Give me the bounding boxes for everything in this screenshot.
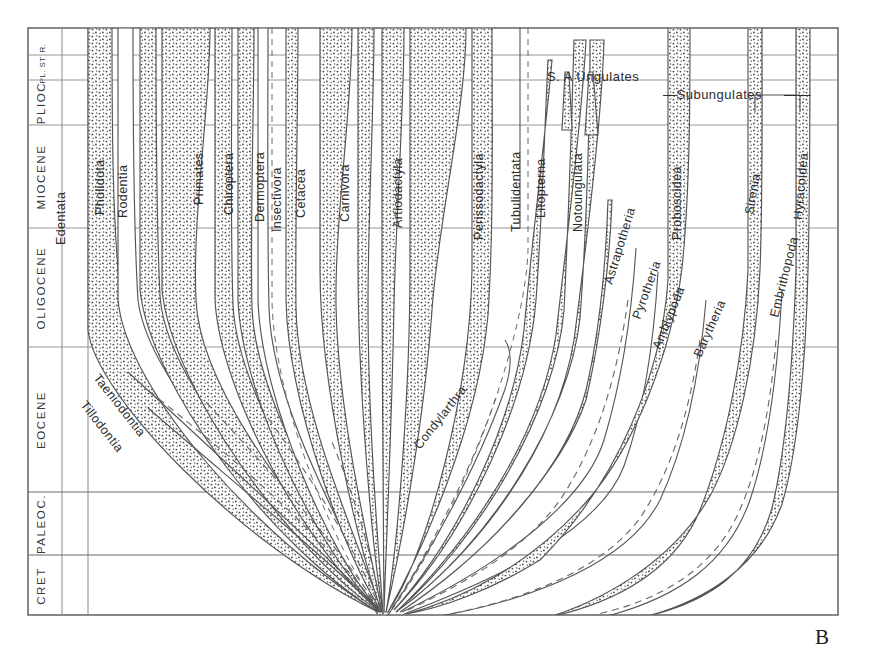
- panel-letter-b: B: [815, 625, 829, 649]
- time-scale-axis: R. PL. ST PLIOC MIOCENE OLIGOCENE EOCENE…: [35, 44, 47, 605]
- phylogeny-figure: R. PL. ST PLIOC MIOCENE OLIGOCENE EOCENE…: [0, 0, 875, 654]
- era-label-recent: R.: [38, 44, 47, 53]
- taxon-label-edentata: Edentata: [54, 192, 68, 245]
- era-label-cretaceous: CRET: [35, 567, 47, 605]
- taxon-label-rodentia: Rodentia: [116, 165, 130, 218]
- era-label-pliocene: PLIOC: [35, 82, 47, 125]
- era-label-paleocene: PALEOC.: [35, 494, 47, 554]
- taxon-label-barytheria: Barytheria: [691, 298, 729, 359]
- era-label-miocene: MIOCENE: [35, 145, 47, 210]
- taxon-label-dermoptera: Dermoptera: [253, 152, 267, 222]
- era-label-eocene: EOCENE: [35, 391, 47, 449]
- taxon-label-proboscidea: Proboscidea: [670, 166, 684, 240]
- lineage-spindles: [88, 28, 810, 618]
- era-label-pleistocene: PL. ST: [38, 57, 47, 84]
- taxon-label-tubulidentata: Tubulidentata: [509, 152, 523, 233]
- taxon-label-pholidota: Pholidota: [93, 159, 107, 215]
- taxon-label-insectivora: Insectivora: [270, 167, 284, 232]
- taxon-label-notoungulata: Notoungulata: [571, 153, 585, 232]
- stem-barytheria-dash: [450, 340, 700, 614]
- taxon-label-carnivora: Carnivora: [338, 164, 352, 222]
- spindle-diagram-canvas: R. PL. ST PLIOC MIOCENE OLIGOCENE EOCENE…: [0, 0, 875, 654]
- taxon-label-cetacea: Cetacea: [294, 169, 308, 218]
- spindle-embrithopoda: [600, 290, 782, 618]
- taxon-label-primates: Primates: [192, 152, 206, 205]
- taxon-label-chiroptera: Chiroptera: [222, 153, 236, 215]
- taxon-label-litopterna: Litopterna: [534, 158, 548, 218]
- taxon-label-perissodactyla: Perissodactyla: [472, 153, 486, 240]
- taxon-label-artiodactyla: Artiodactyla: [391, 158, 405, 228]
- annotation-subungulates-rule: ——: [784, 87, 811, 102]
- stem-embrithopoda-dash: [598, 340, 776, 614]
- annotation-sa-ungulates: S. A Ungulates: [547, 69, 639, 84]
- annotation-subungulates: —Subungulates: [663, 87, 762, 102]
- era-label-oligocene: OLIGOCENE: [35, 247, 47, 330]
- root-trunk: [376, 612, 390, 615]
